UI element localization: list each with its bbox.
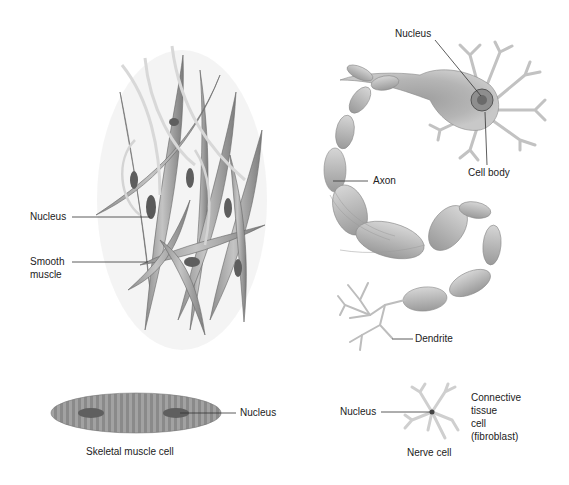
neuron-nucleus-label: Nucleus [395,28,431,40]
fibroblast-title-line2: tissue [471,405,497,417]
fibroblast-nucleus-label: Nucleus [340,406,376,418]
fibroblast-title-line4: (fibroblast) [471,431,518,443]
dendrite-label: Dendrite [415,333,453,345]
neuron-illustration [324,42,545,350]
fibroblast-title-line3: cell [471,418,486,430]
smooth-muscle-nucleus-label: Nucleus [30,211,66,223]
fibroblast-title-line1: Connective [471,392,521,404]
axon-label: Axon [373,175,396,187]
nerve-cell-caption: Nerve cell [407,447,451,459]
skeletal-muscle-caption: Skeletal muscle cell [86,446,174,458]
cell-body-label: Cell body [468,167,510,179]
smooth-muscle-label-line2: muscle [30,269,62,281]
smooth-muscle-bundle [96,46,267,350]
skeletal-nucleus-label: Nucleus [240,407,276,419]
smooth-muscle-label-line1: Smooth [30,256,64,268]
fibroblast-nucleus [430,410,435,415]
